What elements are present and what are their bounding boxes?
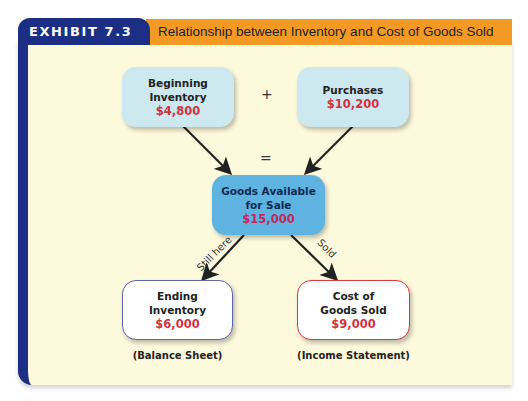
node-label: Goods Available bbox=[212, 184, 325, 198]
goods-available-node: Goods Available for Sale $15,000 bbox=[212, 175, 325, 235]
node-label: Inventory bbox=[122, 90, 234, 104]
node-label: Purchases bbox=[297, 83, 409, 97]
income-statement-caption: (Income Statement) bbox=[290, 350, 417, 361]
beginning-inventory-node: Beginning Inventory $4,800 bbox=[122, 67, 234, 127]
node-label: Goods Sold bbox=[298, 303, 409, 317]
node-label: Beginning bbox=[122, 76, 234, 90]
node-amount: $6,000 bbox=[123, 317, 232, 331]
node-label: for Sale bbox=[212, 198, 325, 212]
plus-operator: + bbox=[261, 86, 273, 102]
equals-operator: = bbox=[260, 150, 272, 166]
node-amount: $10,200 bbox=[297, 97, 409, 111]
exhibit-tab: EXHIBIT 7.3 bbox=[18, 18, 150, 45]
node-amount: $15,000 bbox=[212, 212, 325, 226]
balance-sheet-caption: (Balance Sheet) bbox=[122, 350, 233, 361]
ending-inventory-node: Ending Inventory $6,000 bbox=[122, 280, 233, 340]
node-label: Inventory bbox=[123, 303, 232, 317]
cogs-node: Cost of Goods Sold $9,000 bbox=[297, 280, 410, 340]
node-amount: $9,000 bbox=[298, 317, 409, 331]
node-amount: $4,800 bbox=[122, 104, 234, 118]
exhibit-title: Relationship between Inventory and Cost … bbox=[146, 19, 512, 45]
node-label: Cost of bbox=[298, 289, 409, 303]
purchases-node: Purchases $10,200 bbox=[297, 67, 409, 127]
node-label: Ending bbox=[123, 289, 232, 303]
